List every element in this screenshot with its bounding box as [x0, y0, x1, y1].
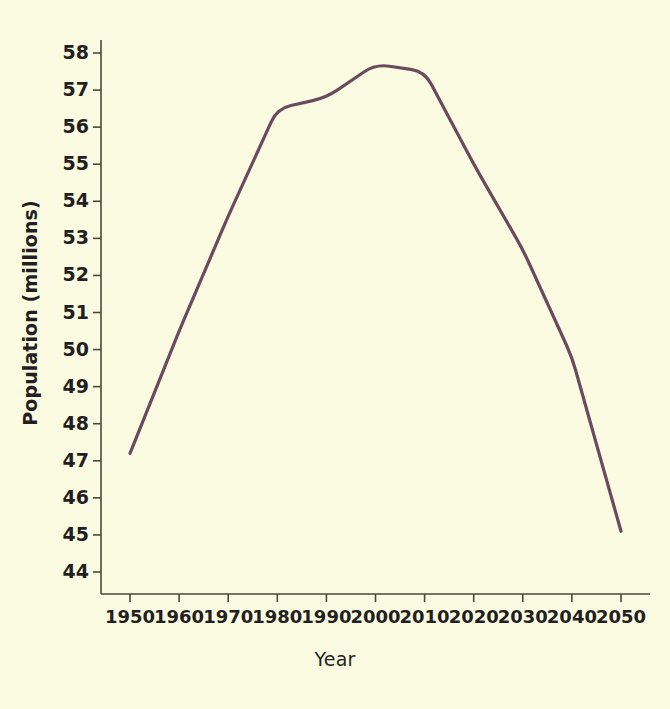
- population-series-line: [130, 66, 621, 531]
- plot-frame: Population (millions) Year 5857565554535…: [0, 0, 670, 709]
- chart-canvas: [0, 0, 670, 709]
- x-tick-marks: [130, 594, 621, 602]
- axis-lines: [101, 40, 650, 594]
- y-tick-marks: [93, 53, 101, 572]
- population-line-chart: Population (millions) Year 5857565554535…: [0, 0, 670, 709]
